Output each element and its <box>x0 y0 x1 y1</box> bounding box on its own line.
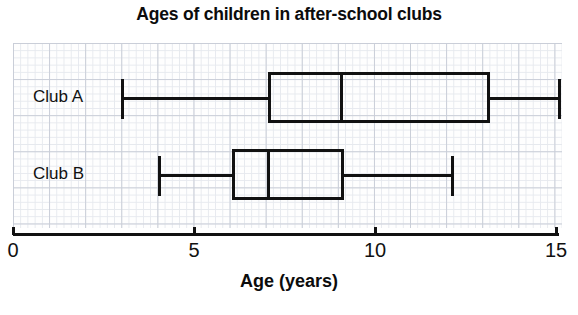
club-b-right-whisker <box>342 174 454 177</box>
x-tick-label-0: 0 <box>0 239 33 262</box>
club-a-median-line <box>340 72 343 123</box>
x-axis-title: Age (years) <box>0 271 578 292</box>
box-plot-chart: Ages of children in after-school clubs C… <box>0 0 578 315</box>
club-b-median-line <box>267 149 270 200</box>
club-b-box <box>232 149 344 200</box>
x-tick-label-15: 15 <box>536 239 576 262</box>
chart-title: Ages of children in after-school clubs <box>0 4 578 25</box>
x-tick-5 <box>193 227 196 235</box>
category-label-club-a: Club A <box>33 87 83 107</box>
x-tick-10 <box>374 227 377 235</box>
category-label-club-b: Club B <box>33 164 84 184</box>
plot-area <box>13 43 562 228</box>
club-b-left-whisker <box>158 174 234 177</box>
club-a-max-whisker-cap <box>558 79 561 119</box>
x-tick-15 <box>555 227 558 235</box>
x-tick-label-10: 10 <box>355 239 395 262</box>
club-a-left-whisker <box>121 97 270 100</box>
graph-paper-grid <box>13 43 562 228</box>
club-a-right-whisker <box>488 97 561 100</box>
club-b-max-whisker-cap <box>451 156 454 196</box>
x-axis-line <box>13 233 559 236</box>
club-a-box <box>268 72 490 123</box>
x-tick-0 <box>12 227 15 235</box>
x-tick-label-5: 5 <box>174 239 214 262</box>
